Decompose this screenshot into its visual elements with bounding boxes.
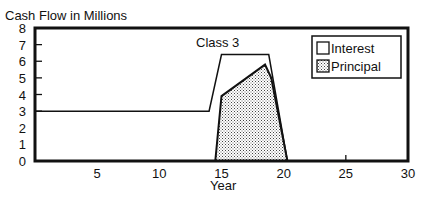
- x-tick-label: 30: [401, 166, 415, 181]
- legend: Interest Principal: [312, 36, 401, 78]
- x-axis-label: Year: [210, 178, 237, 193]
- y-tick-label: 2: [19, 121, 26, 136]
- principal-swatch-icon: [317, 60, 329, 72]
- class-label: Class 3: [196, 35, 239, 50]
- y-tick-label: 5: [19, 71, 26, 86]
- legend-principal-label: Principal: [331, 59, 381, 74]
- y-tick-label: 0: [19, 154, 26, 169]
- y-tick-label: 8: [19, 21, 26, 36]
- y-tick-label: 1: [19, 137, 26, 152]
- y-tick-label: 6: [19, 54, 26, 69]
- y-tick-label: 3: [19, 104, 26, 119]
- y-tick-label: 4: [19, 88, 26, 103]
- legend-interest-label: Interest: [331, 41, 375, 56]
- x-tick-label: 10: [152, 166, 166, 181]
- x-tick-label: 5: [94, 166, 101, 181]
- cash-flow-chart: Cash Flow in Millions 012345678 51015202…: [0, 0, 432, 204]
- x-tick-label: 25: [339, 166, 353, 181]
- y-tick-label: 7: [19, 38, 26, 53]
- x-tick-label: 20: [276, 166, 290, 181]
- interest-swatch-icon: [317, 42, 329, 54]
